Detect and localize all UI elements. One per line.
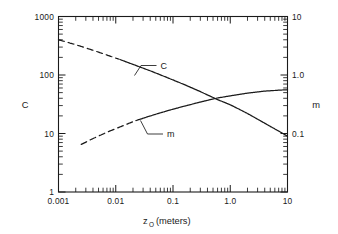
xtick-label-0.1: 0.1 (167, 196, 179, 206)
ytick-label-left-10: 10 (44, 129, 54, 139)
ytick-label-left-100: 100 (39, 70, 54, 80)
xtick-label-0.001: 0.001 (48, 196, 70, 206)
log-log-plot: C m 1000 100 10 1 10 1.0 0.1 0.001 0.01 … (0, 0, 338, 234)
y-axis-ticks (59, 17, 288, 193)
x-axis-title-base: z (143, 216, 148, 226)
curve-c-solid-segment (120, 60, 287, 137)
xtick-label-10: 10 (283, 196, 293, 206)
ytick-label-right-10: 10 (292, 12, 302, 22)
chart-figure: C m 1000 100 10 1 10 1.0 0.1 0.001 0.01 … (0, 0, 338, 234)
curve-m-dashed-segment (81, 121, 135, 144)
x-axis-ticks (59, 17, 288, 193)
x-axis-title: z O (meters) (143, 216, 191, 228)
curve-c-leader (135, 66, 157, 76)
ytick-label-right-1: 1.0 (292, 70, 304, 80)
curve-label-c: C (161, 61, 168, 71)
ytick-label-right-0.1: 0.1 (292, 129, 304, 139)
xtick-label-0.01: 0.01 (107, 196, 124, 206)
x-axis-title-subscript: O (149, 221, 154, 228)
y-axis-right-title: m (312, 100, 320, 110)
curve-label-m: m (167, 129, 175, 139)
plot-frame (59, 17, 288, 193)
curve-c-dashed-segment (59, 40, 120, 59)
x-axis-title-units: (meters) (156, 216, 191, 226)
y-axis-left-title: C (22, 100, 29, 110)
curve-m-solid-segment (136, 90, 288, 121)
xtick-label-1.0: 1.0 (224, 196, 236, 206)
ytick-label-left-1000: 1000 (35, 12, 55, 22)
curve-m-leader (141, 121, 164, 135)
